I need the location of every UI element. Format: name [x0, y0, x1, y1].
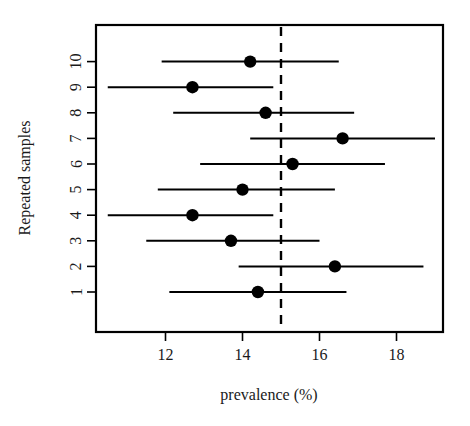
point-sample-9	[186, 81, 198, 93]
plot-frame	[96, 25, 443, 332]
x-axis-tick-labels: 12141618	[158, 346, 405, 363]
y-tick-label-10: 10	[68, 54, 85, 70]
y-tick-label-7: 7	[68, 134, 85, 142]
y-axis-ticks	[87, 62, 96, 292]
point-sample-8	[259, 107, 271, 119]
y-tick-label-2: 2	[68, 262, 85, 270]
forest-plot-figure: 12141618 12345678910 prevalence (%) Repe…	[0, 0, 470, 426]
point-sample-2	[329, 260, 341, 272]
y-tick-label-4: 4	[68, 211, 85, 219]
y-axis-title: Repeated samples	[16, 120, 34, 235]
estimate-points	[186, 55, 349, 298]
point-sample-7	[336, 132, 348, 144]
point-sample-10	[244, 55, 256, 67]
point-sample-3	[225, 235, 237, 247]
x-axis-ticks	[166, 332, 397, 341]
point-sample-1	[252, 286, 264, 298]
confidence-interval-lines	[108, 62, 435, 292]
y-tick-label-1: 1	[68, 288, 85, 296]
x-tick-label-14: 14	[235, 346, 251, 363]
x-tick-label-16: 16	[312, 346, 328, 363]
x-axis-title: prevalence (%)	[220, 386, 317, 404]
x-tick-label-12: 12	[158, 346, 174, 363]
y-tick-label-5: 5	[68, 186, 85, 194]
point-sample-5	[236, 183, 248, 195]
y-tick-label-8: 8	[68, 109, 85, 117]
point-sample-6	[286, 158, 298, 170]
y-tick-label-6: 6	[68, 160, 85, 168]
y-tick-label-9: 9	[68, 83, 85, 91]
plot-canvas: 12141618 12345678910 prevalence (%) Repe…	[0, 0, 470, 426]
y-tick-label-3: 3	[68, 237, 85, 245]
x-tick-label-18: 18	[389, 346, 405, 363]
y-axis-tick-labels: 12345678910	[68, 54, 85, 296]
point-sample-4	[186, 209, 198, 221]
